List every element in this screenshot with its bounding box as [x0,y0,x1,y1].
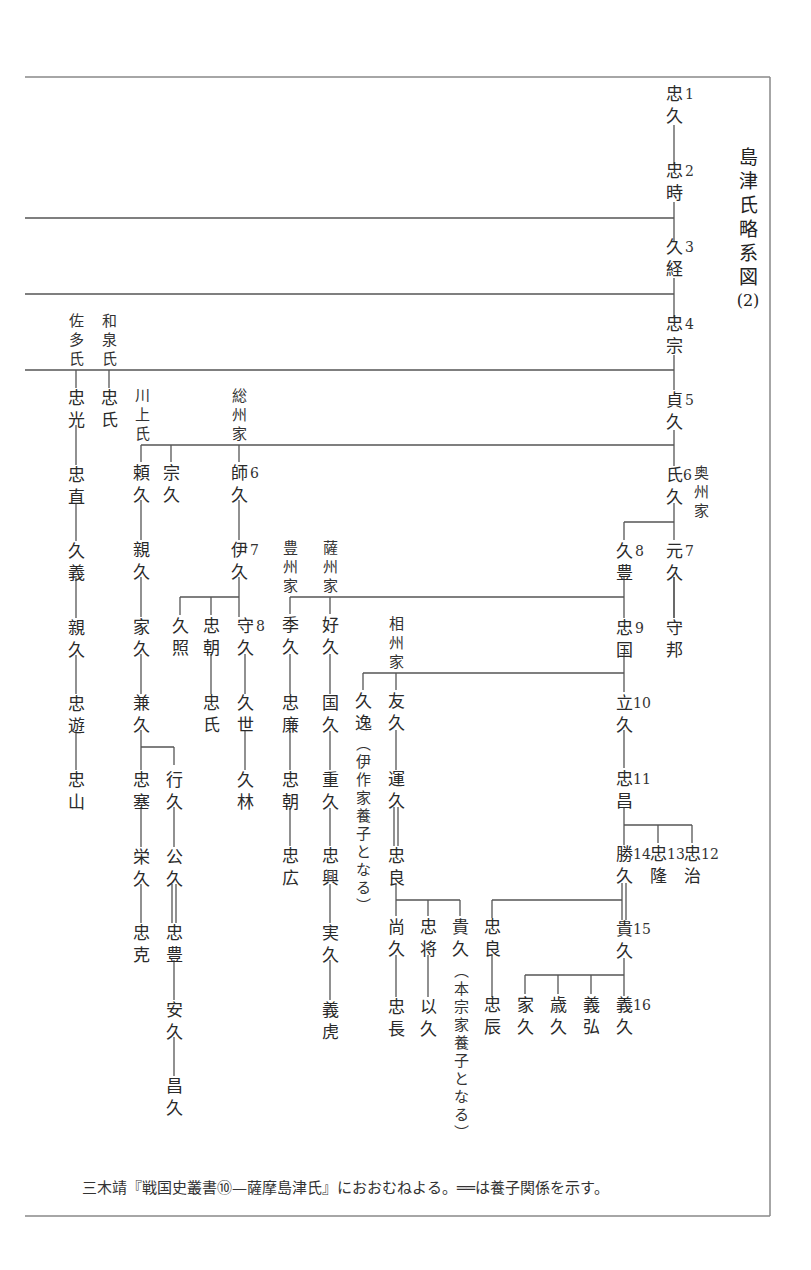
title-char: 略 [736,217,760,241]
node-korehisa: 伊久 [228,539,250,583]
branch-label-sata: 佐多氏 [66,312,86,369]
node-morohisa: 師久 [228,462,250,506]
node-tadatomo-h: 忠朝 [279,769,301,813]
node-masahisa: 昌久 [163,1075,185,1119]
node-tadauji-s: 忠氏 [200,692,222,736]
node-hisabayashi: 久林 [234,769,256,813]
branch-label-hoshu: 豊州家 [280,539,300,596]
gen-number: 6 [250,465,259,481]
node-tatsuhisa: 立久 [613,692,635,736]
gen-number: 5 [685,392,694,408]
branch-label-soshu: 総州家 [229,387,249,444]
node-tomohisa: 友久 [385,690,407,734]
node-tadakado: 忠廉 [279,692,301,736]
title-char: 図 [736,265,760,289]
node-munehisa: 宗久 [160,462,182,506]
node-tadamune: 忠宗 [663,313,685,357]
node-tadanaga: 忠長 [385,996,407,1040]
node-tadatoki: 忠時 [663,160,685,204]
gen-number: 16 [633,997,651,1013]
gen-number: 7 [250,542,259,558]
node-morikuni: 守邦 [663,617,685,661]
node-tadahisa: 忠久 [663,83,685,127]
node-chikahisa-k: 親久 [130,539,152,583]
gen-number: 8 [256,618,265,634]
node-hisatsune: 久経 [663,236,685,280]
node-tadamasa: 忠昌 [613,768,635,812]
node-tadayoshi-2: 忠良 [481,916,503,960]
node-yoshihisa-s: 好久 [319,614,341,658]
node-eihisa: 栄久 [130,846,152,890]
node-tadamasa-s: 忠将 [417,916,439,960]
gen-number: 1 [685,86,694,102]
node-sanehisa: 実久 [319,922,341,966]
title-char: 島 [736,145,760,169]
node-unkyu: 運久 [385,768,407,812]
node-takahisa-main: 貴久 [613,918,635,962]
node-naohisa: 尚久 [385,916,407,960]
node-mochihisa: 以久 [417,996,439,1040]
node-hisayoshi: 久義 [65,540,87,584]
node-tadayu: 忠遊 [65,693,87,737]
node-yorihisa: 頼久 [130,462,152,506]
node-tadayama: 忠山 [65,769,87,813]
title-char: 氏 [736,193,760,217]
node-tadataka: 忠隆 [647,843,669,887]
gen-number: 9 [635,620,644,636]
node-iehisa-k: 家久 [130,616,152,660]
node-sadahisa: 貞久 [663,389,685,433]
node-yoshihisa: 義久 [613,994,635,1038]
node-yoshitora: 義虎 [319,999,341,1043]
node-tadayoshi: 忠良 [385,845,407,889]
node-suehisa: 季久 [279,614,301,658]
node-tadauji-izumi: 忠氏 [98,387,120,431]
gen-number: 10 [633,695,651,711]
gen-number: 12 [701,846,719,862]
note-honso-adoption: ︵本宗家養子となる︶ [451,962,471,1142]
gen-number: 3 [685,239,694,255]
node-katsuhisa: 勝久 [613,843,635,887]
node-yasuhisa: 安久 [163,999,185,1043]
node-tadaoki: 忠興 [319,845,341,889]
node-hisatoyo: 久豊 [613,540,635,584]
node-morihisa: 守久 [234,615,256,659]
chart-title: 島 津 氏 略 系 図 (2) [736,145,760,313]
node-yoshihiro: 義弘 [580,994,602,1038]
node-tadasai: 忠塞 [130,769,152,813]
node-tadanao: 忠直 [65,464,87,508]
node-chikahisa-s: 親久 [65,617,87,661]
gen-number: 4 [685,316,694,332]
node-shigehisa: 重久 [319,769,341,813]
node-tadatomo-s: 忠朝 [200,615,222,659]
node-tadatoyo: 忠豊 [163,922,185,966]
node-takahisa-s: 貴久 [449,916,471,960]
branch-label-sagami: 相州家 [386,615,406,672]
title-char: 津 [736,169,760,193]
branch-label-izumi: 和泉氏 [99,312,119,369]
source-caption: 三木靖『戦国史叢書⑩—薩摩島津氏』におおむねよる。══は養子関係を示す。 [82,1176,609,1197]
gen-number: 15 [633,921,651,937]
node-tadamitsu: 忠光 [65,387,87,431]
gen-number: 11 [633,771,651,787]
branch-label-kawakami: 川上氏 [132,387,152,444]
node-tadatoki-2: 忠辰 [481,994,503,1038]
node-iehisa: 家久 [514,994,536,1038]
node-tadakatsu: 忠克 [130,922,152,966]
branch-label-sasshu: 薩州家 [320,539,340,596]
node-motohisa: 元久 [663,540,685,584]
node-tadaharu: 忠治 [681,843,703,887]
node-toshihisa: 歳久 [547,994,569,1038]
node-hisayo: 久世 [234,692,256,736]
node-kanehisa: 兼久 [130,692,152,736]
title-char: 系 [736,241,760,265]
branch-label-oshu: 奥州家 [691,464,711,521]
node-hisateru: 久照 [169,615,191,659]
title-char: (2) [736,289,760,313]
node-yukihisa: 行久 [163,769,185,813]
node-hisayasu: 久逸 [352,690,374,734]
gen-number: 2 [685,163,694,179]
note-isaku-adoption: ︵伊作家養子となる︶ [353,735,373,915]
gen-number: 8 [635,543,644,559]
node-tadakuni: 忠国 [613,617,635,661]
node-kimihisa: 公久 [163,846,185,890]
